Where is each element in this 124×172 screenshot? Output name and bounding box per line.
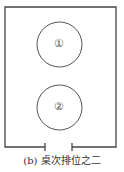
table-1-label: ①	[49, 38, 69, 50]
room-diagram	[0, 0, 124, 172]
room-wall	[5, 7, 116, 147]
figure-caption: (b) 桌次排位之二	[0, 152, 124, 167]
table-2-label: ②	[49, 101, 69, 113]
